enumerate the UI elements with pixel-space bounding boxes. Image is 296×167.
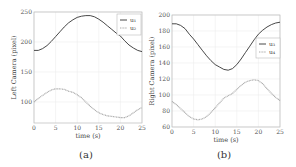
panel-caption: (b) [217, 149, 231, 160]
y-axis-label: Right Camera (pixel) [148, 36, 156, 105]
y-tick-label: 160 [159, 43, 171, 50]
panel-caption: (a) [79, 149, 93, 160]
chart-panel-b: 05101520256080100120140160180200time (s)… [148, 11, 284, 160]
x-axis-label: time (s) [213, 136, 239, 144]
x-tick-label: 10 [73, 124, 81, 131]
x-tick-label: 25 [276, 128, 284, 135]
x-axis-label: time (s) [75, 132, 101, 140]
y-tick-label: 180 [159, 27, 171, 34]
x-tick-label: 25 [138, 124, 146, 131]
y-tick-label: 100 [21, 98, 33, 105]
x-tick-label: 20 [117, 124, 125, 131]
y-axis-label: Left Camera (pixel) [10, 35, 18, 100]
x-tick-label: 5 [192, 128, 196, 135]
x-tick-label: 10 [211, 128, 219, 135]
y-tick-label: 80 [162, 107, 170, 114]
x-tick-label: 0 [170, 128, 174, 135]
figure: 0510152025100150200250time (s)Left Camer… [0, 0, 296, 167]
y-tick-label: 120 [159, 75, 171, 82]
legend: u₃u₄ [256, 38, 280, 58]
chart-panel-a: 0510152025100150200250time (s)Left Camer… [10, 8, 146, 160]
x-tick-label: 15 [233, 128, 241, 135]
series-line-u4 [172, 80, 280, 120]
x-tick-label: 0 [32, 124, 36, 131]
x-tick-label: 20 [255, 128, 263, 135]
x-tick-label: 15 [95, 124, 103, 131]
legend-entry: u₂ [130, 24, 137, 31]
y-tick-label: 60 [162, 123, 170, 130]
y-tick-label: 200 [21, 38, 33, 45]
y-tick-label: 200 [159, 11, 171, 18]
y-tick-label: 150 [21, 68, 33, 75]
legend: u₁u₂ [117, 14, 141, 35]
plot-frame [172, 15, 280, 127]
series-line-u2 [34, 89, 142, 118]
x-tick-label: 5 [54, 124, 58, 131]
y-tick-label: 250 [21, 8, 33, 15]
y-tick-label: 140 [159, 59, 171, 66]
y-tick-label: 100 [159, 91, 171, 98]
legend-entry: u₃ [269, 40, 276, 47]
legend-entry: u₁ [130, 16, 136, 23]
legend-entry: u₄ [269, 48, 276, 55]
